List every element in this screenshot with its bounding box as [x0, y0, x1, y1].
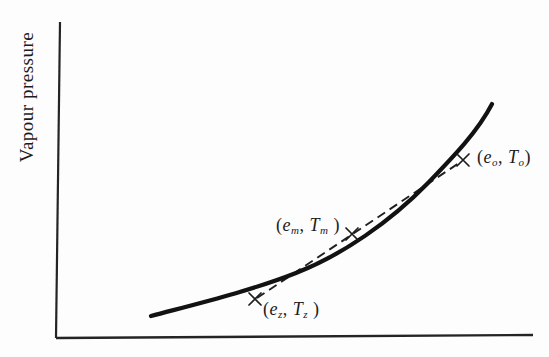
var-T: T: [309, 215, 320, 235]
cross-marker-o-icon: [457, 154, 469, 166]
x-axis: [56, 335, 533, 338]
point-label-m: (em, Tm ): [276, 216, 340, 236]
paren-close: ): [525, 147, 532, 167]
comma: ,: [299, 215, 309, 235]
paren-close: ): [328, 215, 340, 235]
y-axis: [56, 22, 60, 338]
vapour-pressure-curve: [151, 104, 492, 316]
cross-marker-m-icon: [346, 228, 358, 240]
cross-marker-z-icon: [249, 293, 261, 305]
paren-close: ): [308, 299, 320, 319]
y-axis-label: Vapour pressure: [16, 22, 38, 172]
point-label-o: (eo, To): [477, 148, 531, 168]
var-T: T: [293, 299, 304, 319]
comma: ,: [283, 299, 293, 319]
point-label-z: (ez, Tz ): [263, 300, 320, 320]
var-T: T: [508, 147, 519, 167]
var-e: e: [484, 147, 493, 167]
var-e: e: [270, 299, 279, 319]
var-e: e: [283, 215, 292, 235]
comma: ,: [498, 147, 508, 167]
figure-canvas: Vapour pressure (ez, Tz ) (em, Tm ) (eo,…: [0, 0, 549, 357]
